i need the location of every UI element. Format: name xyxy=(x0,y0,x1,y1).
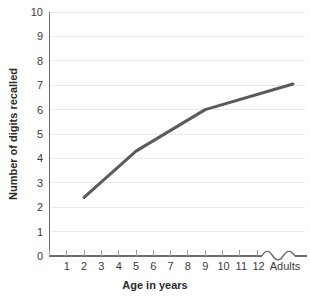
y-tick-label-1: 1 xyxy=(37,226,43,238)
y-tick-label-9: 9 xyxy=(37,30,43,42)
series-digit-span xyxy=(84,84,293,197)
digit-span-line-chart: 0 1 2 3 4 5 6 7 8 9 10 1 2 3 4 5 6 7 8 9… xyxy=(0,0,310,296)
y-tick-label-6: 6 xyxy=(37,104,43,116)
x-tick-label-2: 2 xyxy=(81,260,87,272)
y-tick-label-4: 4 xyxy=(37,152,43,164)
x-tick-label-7: 7 xyxy=(168,260,174,272)
x-tick-label-4: 4 xyxy=(116,260,122,272)
y-axis-title: Number of digits recalled xyxy=(7,68,19,200)
x-tick-label-adults: Adults xyxy=(270,260,301,272)
x-tick-label-12: 12 xyxy=(252,260,264,272)
x-tick-label-5: 5 xyxy=(133,260,139,272)
gridlines xyxy=(49,12,305,232)
x-tick-label-9: 9 xyxy=(202,260,208,272)
x-axis-tick-labels: 1 2 3 4 5 6 7 8 9 10 11 12 Adults xyxy=(64,260,301,272)
y-tick-label-8: 8 xyxy=(37,55,43,67)
x-axis-title: Age in years xyxy=(122,279,187,291)
x-tick-label-11: 11 xyxy=(236,260,247,272)
data-line-digit-span xyxy=(84,84,293,197)
x-tick-label-8: 8 xyxy=(185,260,191,272)
x-axis-break-squiggle xyxy=(262,251,295,259)
x-tick-label-1: 1 xyxy=(64,260,70,272)
y-tick-label-0: 0 xyxy=(37,250,43,262)
x-tick-label-10: 10 xyxy=(217,260,229,272)
y-axis-tick-labels: 0 1 2 3 4 5 6 7 8 9 10 xyxy=(31,6,43,262)
chart-canvas: 0 1 2 3 4 5 6 7 8 9 10 1 2 3 4 5 6 7 8 9… xyxy=(0,0,310,296)
y-tick-label-7: 7 xyxy=(37,79,43,91)
x-tick-label-6: 6 xyxy=(150,260,156,272)
y-tick-label-5: 5 xyxy=(37,128,43,140)
y-tick-label-10: 10 xyxy=(31,6,43,18)
x-axis-ticks xyxy=(50,250,258,256)
axis-spines xyxy=(49,12,307,260)
y-tick-label-3: 3 xyxy=(37,177,43,189)
x-tick-label-3: 3 xyxy=(98,260,104,272)
y-tick-label-2: 2 xyxy=(37,201,43,213)
